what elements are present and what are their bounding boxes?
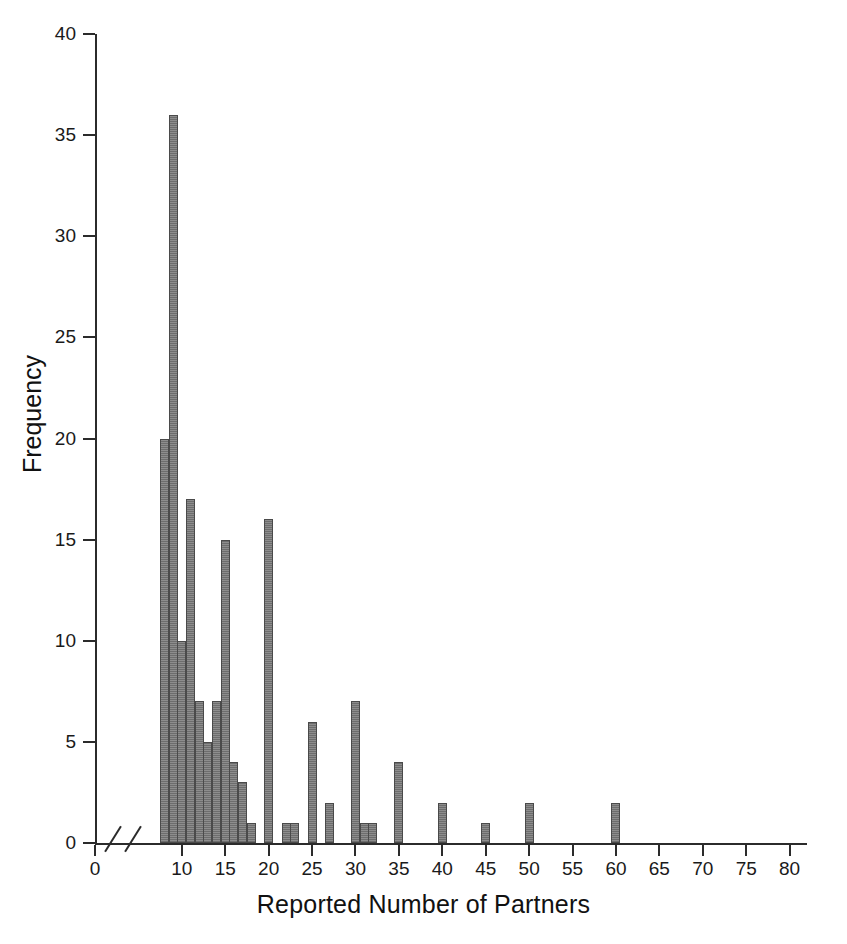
x-tick-mark — [311, 845, 313, 856]
x-tick-mark — [268, 845, 270, 856]
y-tick-label: 30 — [38, 226, 76, 245]
y-tick-label: 20 — [38, 429, 76, 448]
y-tick-mark — [83, 741, 95, 743]
x-tick-mark — [354, 845, 356, 856]
histogram-bar — [229, 762, 238, 843]
x-tick-mark — [789, 845, 791, 856]
histogram-figure: Frequency 0510152025303540 0101520253035… — [0, 0, 847, 944]
y-tick-mark — [83, 336, 95, 338]
x-tick-mark — [224, 845, 226, 856]
y-tick-mark — [83, 640, 95, 642]
bars-layer — [95, 34, 807, 843]
histogram-bar — [290, 823, 299, 843]
x-axis-line — [95, 843, 807, 845]
histogram-bar — [525, 803, 534, 843]
x-tick-mark — [572, 845, 574, 856]
x-tick-mark — [658, 845, 660, 856]
y-tick-mark — [83, 235, 95, 237]
histogram-bar — [368, 823, 377, 843]
x-tick-mark — [181, 845, 183, 856]
histogram-bar — [611, 803, 620, 843]
histogram-bar — [169, 115, 178, 843]
x-axis-title: Reported Number of Partners — [0, 890, 847, 918]
histogram-bar — [160, 439, 169, 844]
histogram-bar — [438, 803, 447, 843]
histogram-bar — [308, 722, 317, 843]
histogram-bar — [264, 519, 273, 843]
x-tick-mark — [485, 845, 487, 856]
x-tick-mark — [94, 845, 96, 856]
histogram-bar — [212, 701, 221, 843]
y-tick-mark — [83, 539, 95, 541]
histogram-bar — [351, 701, 360, 843]
x-tick-mark — [615, 845, 617, 856]
x-tick-mark — [441, 845, 443, 856]
y-tick-mark — [83, 33, 95, 35]
histogram-bar — [186, 499, 195, 843]
y-tick-label: 25 — [38, 327, 76, 346]
y-tick-label: 15 — [38, 530, 76, 549]
y-tick-label: 40 — [38, 24, 76, 43]
histogram-bar — [481, 823, 490, 843]
y-tick-label: 0 — [38, 833, 76, 852]
y-tick-mark — [83, 134, 95, 136]
histogram-bar — [195, 701, 204, 843]
y-tick-mark — [83, 438, 95, 440]
y-tick-label: 5 — [38, 732, 76, 751]
x-tick-label: 0 — [65, 858, 125, 879]
y-tick-mark — [83, 842, 95, 844]
y-axis-title-holder: Frequency — [0, 0, 40, 844]
y-tick-label: 35 — [38, 125, 76, 144]
x-tick-label: 80 — [760, 858, 820, 879]
histogram-bar — [238, 782, 247, 843]
histogram-bar — [203, 742, 212, 843]
x-tick-mark — [528, 845, 530, 856]
x-tick-mark — [398, 845, 400, 856]
x-tick-mark — [702, 845, 704, 856]
histogram-bar — [325, 803, 334, 843]
histogram-bar — [394, 762, 403, 843]
y-axis-title: Frequency — [18, 264, 46, 564]
histogram-bar — [360, 823, 369, 843]
histogram-bar — [282, 823, 291, 843]
y-tick-label: 10 — [38, 631, 76, 650]
histogram-bar — [177, 641, 186, 843]
x-tick-mark — [745, 845, 747, 856]
histogram-bar — [247, 823, 256, 843]
histogram-bar — [221, 540, 230, 843]
